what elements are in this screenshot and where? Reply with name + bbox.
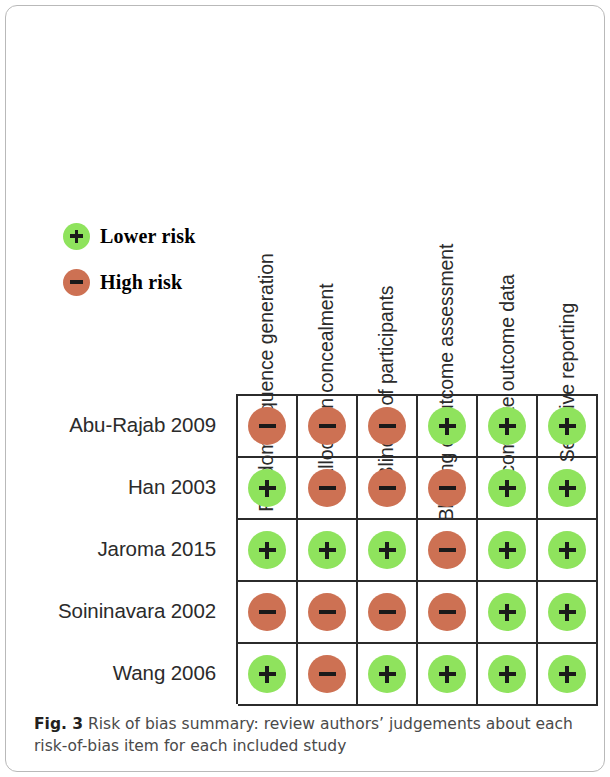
matrix-cell[interactable] <box>298 644 358 706</box>
matrix-cell[interactable] <box>418 582 478 644</box>
high-risk-icon <box>428 469 466 507</box>
row-label-0: Abu-Rajab 2009 <box>6 394 226 456</box>
matrix-cell[interactable] <box>538 396 598 458</box>
figure-caption-text: Risk of bias summary: review authors’ ju… <box>34 715 573 755</box>
column-header-2: Blinding of participants <box>357 14 417 394</box>
minus-horizontal-bar <box>319 672 336 676</box>
plus-vertical-bar <box>325 542 329 559</box>
matrix-cell[interactable] <box>238 520 298 582</box>
figure-frame: Lower risk High risk Random sequence gen… <box>5 5 605 772</box>
plus-vertical-bar <box>505 480 509 497</box>
matrix-cell[interactable] <box>538 582 598 644</box>
row-label-1: Han 2003 <box>6 456 226 518</box>
figure-caption: Fig. 3 Risk of bias summary: review auth… <box>34 713 589 758</box>
high-risk-icon <box>308 655 346 693</box>
row-label-3: Soininavara 2002 <box>6 580 226 642</box>
row-labels: Abu-Rajab 2009Han 2003Jaroma 2015Soinina… <box>6 394 226 704</box>
lower-risk-icon <box>488 593 526 631</box>
matrix-cell[interactable] <box>538 644 598 706</box>
lower-risk-icon <box>488 531 526 569</box>
column-header-1: Allocation concealment <box>296 14 356 394</box>
matrix-cell[interactable] <box>478 644 538 706</box>
matrix-cell[interactable] <box>238 644 298 706</box>
matrix-cell[interactable] <box>418 644 478 706</box>
lower-risk-icon <box>428 655 466 693</box>
matrix-cell[interactable] <box>238 582 298 644</box>
plus-vertical-bar <box>565 604 569 621</box>
minus-horizontal-bar <box>319 610 336 614</box>
lower-risk-icon <box>248 469 286 507</box>
plus-vertical-bar <box>505 604 509 621</box>
high-risk-icon <box>428 593 466 631</box>
plus-vertical-bar <box>565 666 569 683</box>
plus-vertical-bar <box>565 480 569 497</box>
matrix-cell[interactable] <box>358 644 418 706</box>
minus-horizontal-bar <box>259 424 276 428</box>
matrix-cell[interactable] <box>418 396 478 458</box>
plus-vertical-bar <box>445 666 449 683</box>
matrix-cell[interactable] <box>478 520 538 582</box>
lower-risk-icon <box>488 469 526 507</box>
matrix-cell[interactable] <box>418 458 478 520</box>
risk-of-bias-matrix <box>236 394 598 704</box>
lower-risk-icon <box>308 531 346 569</box>
minus-horizontal-bar <box>379 486 396 490</box>
minus-horizontal-bar <box>70 280 83 283</box>
legend-item-lower-risk: Lower risk <box>63 218 233 254</box>
high-risk-icon <box>308 593 346 631</box>
lower-risk-icon <box>63 223 90 250</box>
plus-vertical-bar <box>565 418 569 435</box>
matrix-cell[interactable] <box>478 396 538 458</box>
row-label-4: Wang 2006 <box>6 642 226 704</box>
matrix-cell[interactable] <box>538 458 598 520</box>
matrix-cell[interactable] <box>298 520 358 582</box>
matrix-cell[interactable] <box>478 458 538 520</box>
plus-vertical-bar <box>385 666 389 683</box>
matrix-cell[interactable] <box>358 582 418 644</box>
matrix-cell[interactable] <box>298 458 358 520</box>
legend-item-high-risk: High risk <box>63 264 233 300</box>
figure-number: Fig. 3 <box>34 715 83 733</box>
lower-risk-icon <box>248 655 286 693</box>
high-risk-icon <box>368 593 406 631</box>
column-headers: Random sequence generationAllocation con… <box>236 14 598 394</box>
column-header-5: Selective reporting <box>538 14 598 394</box>
plus-vertical-bar <box>505 542 509 559</box>
column-header-0: Random sequence generation <box>236 14 296 394</box>
high-risk-icon <box>368 407 406 445</box>
matrix-cell[interactable] <box>358 396 418 458</box>
lower-risk-icon <box>368 531 406 569</box>
matrix-cell[interactable] <box>298 582 358 644</box>
table-row <box>238 582 598 644</box>
matrix-cell[interactable] <box>358 458 418 520</box>
matrix-cell[interactable] <box>418 520 478 582</box>
plus-vertical-bar <box>505 666 509 683</box>
plus-vertical-bar <box>505 418 509 435</box>
matrix-cell[interactable] <box>478 582 538 644</box>
lower-risk-icon <box>548 407 586 445</box>
row-label-2: Jaroma 2015 <box>6 518 226 580</box>
matrix-cell[interactable] <box>358 520 418 582</box>
matrix-cell[interactable] <box>238 458 298 520</box>
high-risk-icon <box>428 531 466 569</box>
minus-horizontal-bar <box>319 486 336 490</box>
minus-horizontal-bar <box>259 610 276 614</box>
lower-risk-icon <box>548 469 586 507</box>
lower-risk-icon <box>368 655 406 693</box>
matrix-cell[interactable] <box>298 396 358 458</box>
matrix-cell[interactable] <box>238 396 298 458</box>
table-row <box>238 458 598 520</box>
lower-risk-icon <box>488 407 526 445</box>
high-risk-icon <box>308 407 346 445</box>
lower-risk-icon <box>548 531 586 569</box>
minus-horizontal-bar <box>379 424 396 428</box>
matrix-cell[interactable] <box>538 520 598 582</box>
high-risk-icon <box>248 407 286 445</box>
column-header-3: Blinding of outcome assessment <box>417 14 477 394</box>
minus-horizontal-bar <box>319 424 336 428</box>
lower-risk-icon <box>548 655 586 693</box>
table-row <box>238 520 598 582</box>
column-header-4: Incomplete outcome data <box>477 14 537 394</box>
high-risk-icon <box>63 269 90 296</box>
minus-horizontal-bar <box>379 610 396 614</box>
